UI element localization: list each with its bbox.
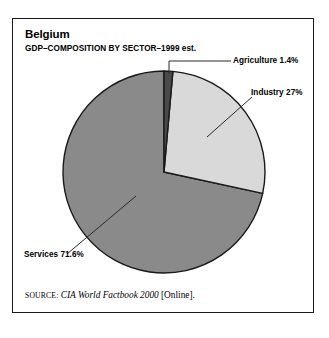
slice-label-agriculture: Agriculture 1.4% xyxy=(233,56,298,65)
figure-container: Belgium GDP–COMPOSITION BY SECTOR–1999 e… xyxy=(0,0,329,338)
source-work-title: CIA World Factbook 2000 xyxy=(61,290,159,300)
title-block: Belgium GDP–COMPOSITION BY SECTOR–1999 e… xyxy=(25,28,275,54)
slice-label-services: Services 71.6% xyxy=(24,250,84,259)
source-label: Source: xyxy=(25,291,58,300)
source-medium: [Online]. xyxy=(161,290,195,300)
chart-subtitle: GDP–COMPOSITION BY SECTOR–1999 est. xyxy=(25,43,275,54)
slice-label-industry: Industry 27% xyxy=(251,88,303,97)
page-title: Belgium xyxy=(25,28,275,41)
source-note: Source: CIA World Factbook 2000 [Online]… xyxy=(25,290,195,300)
